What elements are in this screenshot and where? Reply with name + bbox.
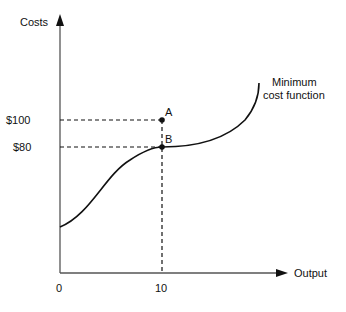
curve-label-line2: cost function [263,89,325,101]
y-tick-80: $80 [13,141,31,153]
y-axis-arrow-icon [56,14,64,26]
curve-label-line1: Minimum [272,76,317,88]
x-axis-arrow-icon [276,269,288,277]
x-tick-0: 0 [56,282,62,294]
y-axis-label: Costs [20,16,49,28]
x-tick-10: 10 [155,282,167,294]
y-tick-100: $100 [6,114,30,126]
point-a [159,117,165,123]
point-b [159,144,165,150]
point-b-label: B [165,133,172,145]
cost-chart: Costs Output 0 10 $100 $80 A B Minimum c… [0,0,346,312]
point-a-label: A [165,106,173,118]
x-axis-label: Output [294,267,327,279]
minimum-cost-curve [60,83,259,227]
